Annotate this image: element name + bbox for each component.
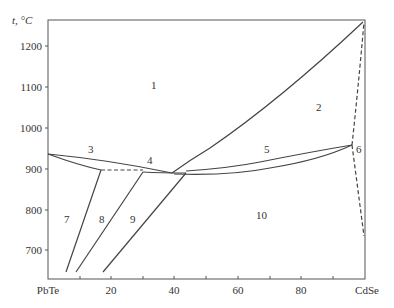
cdse-solvus-upper: [352, 22, 364, 145]
region-1: 1: [151, 79, 157, 91]
cdse-solvus-lower: [352, 145, 364, 236]
phase-diagram: t, °C 1200 1100 1000 900 800 700 PbTe 20…: [0, 0, 394, 308]
region-3: 3: [88, 143, 94, 155]
y-axis-title: t, °C: [12, 14, 33, 26]
y-tick-1200: 1200: [20, 40, 43, 52]
boundary-7-8: [66, 170, 101, 272]
y-tick-1000: 1000: [20, 122, 43, 134]
x-tick-cdse: CdSe: [355, 284, 379, 296]
x-tick-40: 40: [169, 284, 181, 296]
region-10: 10: [256, 209, 268, 221]
region-9: 9: [130, 213, 136, 225]
eutectic-segment: [143, 172, 186, 173]
x-tick-pbte: PbTe: [37, 284, 60, 296]
region-labels: 1 2 3 4 5 6 7 8 9 10: [64, 79, 362, 225]
y-tick-800: 800: [26, 204, 43, 216]
phase-curves: [48, 22, 364, 272]
region-2: 2: [316, 101, 322, 113]
region-5: 5: [264, 143, 270, 155]
y-tick-700: 700: [26, 244, 43, 256]
y-tick-900: 900: [26, 163, 43, 175]
x-tick-80: 80: [296, 284, 308, 296]
x-tick-20: 20: [106, 284, 118, 296]
region-7: 7: [64, 213, 70, 225]
y-axis: 1200 1100 1000 900 800 700: [20, 40, 48, 256]
region-4: 4: [147, 154, 153, 166]
region-8: 8: [99, 213, 105, 225]
region-6: 6: [356, 143, 362, 155]
y-tick-1100: 1100: [20, 81, 42, 93]
boundary-9-10: [103, 173, 186, 272]
x-tick-60: 60: [233, 284, 245, 296]
